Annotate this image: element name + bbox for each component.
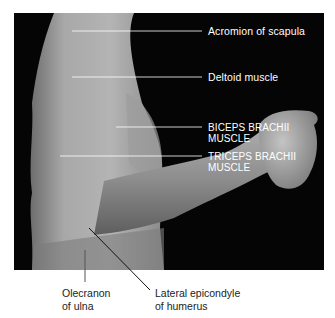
label-biceps-line2: MUSCLE (208, 133, 250, 144)
label-deltoid: Deltoid muscle (208, 72, 278, 83)
arm-silhouette (14, 13, 324, 270)
caption-lateral-epicondyle-line2: of humerus (155, 300, 208, 312)
label-acromion: Acromion of scapula (208, 26, 305, 37)
anatomy-photo: Acromion of scapula Deltoid muscle BICEP… (14, 13, 324, 270)
label-biceps-line1: BICEPS BRACHII (208, 122, 289, 133)
label-triceps-line1: TRICEPS BRACHII (208, 151, 296, 162)
caption-olecranon-line1: Olecranon (62, 287, 110, 299)
caption-lateral-epicondyle-line1: Lateral epicondyle (155, 287, 240, 299)
label-triceps-line2: MUSCLE (208, 162, 250, 173)
caption-olecranon-line2: of ulna (62, 300, 94, 312)
